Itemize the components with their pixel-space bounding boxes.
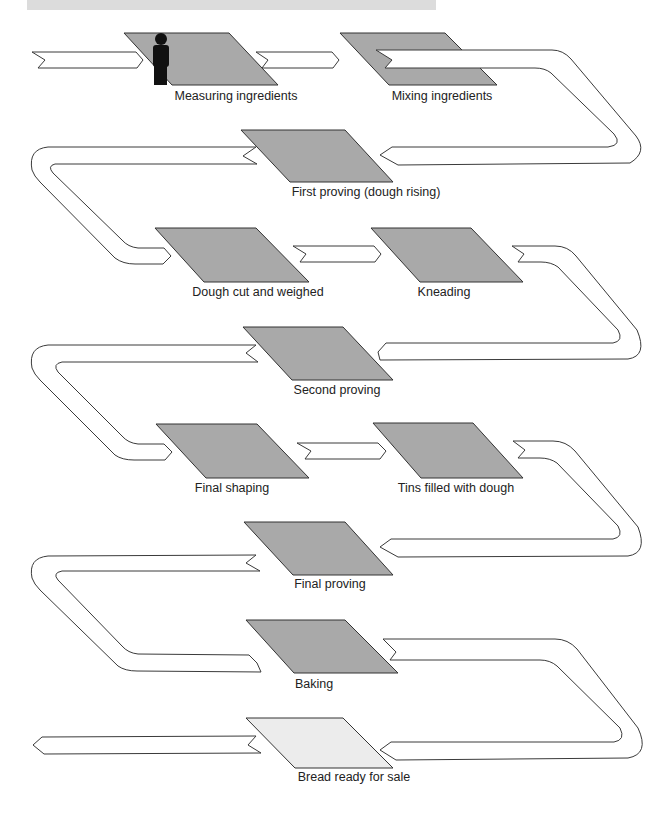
- label-step-3: First proving (dough rising): [292, 185, 441, 199]
- label-step-9: Final proving: [294, 577, 366, 591]
- ribbon-step-10-to-11: [380, 639, 642, 760]
- label-step-6: Second proving: [294, 383, 381, 397]
- ribbon-step-9-to-10: [31, 555, 261, 672]
- arrow-step-7-to-8: [297, 443, 386, 459]
- step-3-first-proving: [241, 130, 393, 182]
- label-step-5: Kneading: [418, 285, 471, 299]
- entry-arrow: [32, 52, 143, 68]
- exit-arrow: [33, 736, 261, 754]
- arrow-step-1-to-2: [256, 52, 339, 68]
- label-step-1: Measuring ingredients: [175, 89, 298, 103]
- person-icon: [153, 33, 169, 85]
- arrow-step-4-to-5: [293, 246, 381, 262]
- step-9-final-proving: [244, 522, 393, 575]
- step-11-bread-ready-for-sale: [246, 718, 393, 768]
- step-6-second-proving: [243, 327, 393, 380]
- step-4-dough-cut-and-weighed: [155, 228, 309, 282]
- label-step-2: Mixing ingredients: [392, 89, 493, 103]
- label-step-4: Dough cut and weighed: [192, 285, 323, 299]
- step-7-final-shaping: [156, 424, 309, 478]
- label-step-8: Tins filled with dough: [398, 481, 514, 495]
- label-step-11: Bread ready for sale: [298, 770, 411, 784]
- step-10-baking: [246, 620, 398, 673]
- label-step-7: Final shaping: [195, 481, 269, 495]
- step-5-kneading: [371, 228, 523, 282]
- step-8-tins-filled-with-dough: [373, 423, 523, 478]
- label-step-10: Baking: [295, 677, 333, 691]
- ribbon-step-2-to-3: [376, 50, 641, 165]
- flow-diagram: [0, 0, 664, 815]
- step-1-measuring-ingredients: [124, 33, 278, 85]
